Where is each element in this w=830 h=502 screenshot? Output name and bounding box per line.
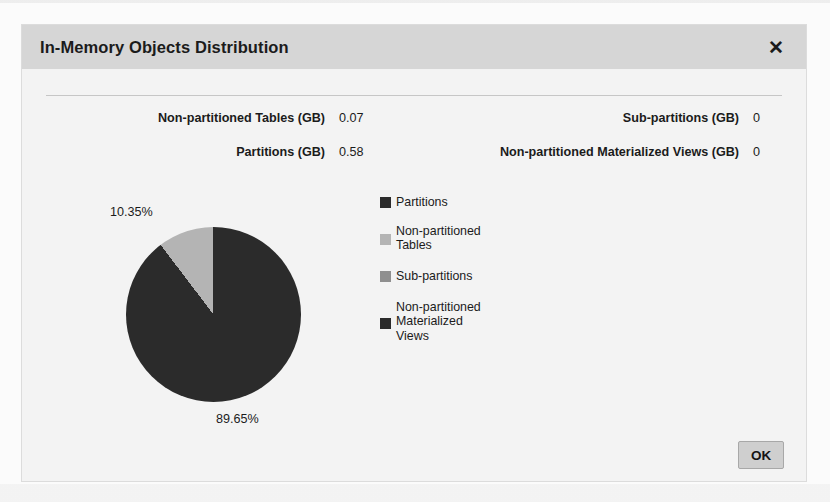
stat-value: 0.07 [325, 111, 377, 127]
stat-partitions: Partitions (GB) 0.58 [22, 145, 377, 161]
legend-item-sub-partitions[interactable]: Sub-partitions [380, 269, 620, 284]
legend-item-label: Partitions [396, 195, 448, 210]
pie-graphic [126, 227, 301, 402]
pie-chart: 10.35% 89.65% [96, 205, 346, 435]
legend-item-label: Non-partitioned Materialized Views [396, 300, 481, 344]
summary-column-right: Sub-partitions (GB) 0 Non-partitioned Ma… [391, 111, 791, 160]
legend-item-label: Non-partitioned Tables [396, 224, 481, 253]
stat-sub-partitions: Sub-partitions (GB) 0 [391, 111, 791, 127]
legend-swatch-icon [380, 318, 391, 329]
dialog-header: In-Memory Objects Distribution ✕ [22, 25, 806, 69]
legend-item-non-partitioned-tables[interactable]: Non-partitioned Tables [380, 224, 620, 253]
in-memory-objects-distribution-dialog: In-Memory Objects Distribution ✕ Non-par… [22, 25, 806, 481]
legend-item-non-partitioned-materialized-views[interactable]: Non-partitioned Materialized Views [380, 300, 620, 344]
stat-value: 0 [739, 111, 791, 127]
dialog-footer: OK [738, 441, 784, 469]
legend-item-label: Sub-partitions [396, 269, 472, 284]
stat-label: Non-partitioned Tables (GB) [22, 111, 325, 127]
stat-value: 0.58 [325, 145, 377, 161]
stat-value: 0 [739, 145, 791, 161]
summary-column-left: Non-partitioned Tables (GB) 0.07 Partiti… [22, 111, 377, 160]
summary-stats: Non-partitioned Tables (GB) 0.07 Partiti… [22, 111, 806, 160]
header-divider [46, 95, 782, 96]
pie-slice-label-partitions: 89.65% [216, 412, 259, 426]
legend-item-partitions[interactable]: Partitions [380, 195, 620, 210]
ok-button[interactable]: OK [738, 441, 784, 469]
stat-non-partitioned-materialized-views: Non-partitioned Materialized Views (GB) … [391, 145, 791, 161]
stat-label: Sub-partitions (GB) [391, 111, 739, 127]
chart-area: 10.35% 89.65% Partitions Non-partitioned… [22, 187, 806, 437]
stat-non-partitioned-tables: Non-partitioned Tables (GB) 0.07 [22, 111, 377, 127]
chart-legend: Partitions Non-partitioned Tables Sub-pa… [380, 195, 620, 357]
close-icon[interactable]: ✕ [762, 36, 790, 59]
legend-swatch-icon [380, 234, 391, 245]
legend-swatch-icon [380, 197, 391, 208]
dialog-body: Non-partitioned Tables (GB) 0.07 Partiti… [22, 69, 806, 481]
legend-swatch-icon [380, 271, 391, 282]
dialog-title: In-Memory Objects Distribution [40, 38, 289, 57]
stat-label: Partitions (GB) [22, 145, 325, 161]
pie-slice-label-non-partitioned-tables: 10.35% [110, 205, 153, 219]
stat-label: Non-partitioned Materialized Views (GB) [391, 145, 739, 161]
